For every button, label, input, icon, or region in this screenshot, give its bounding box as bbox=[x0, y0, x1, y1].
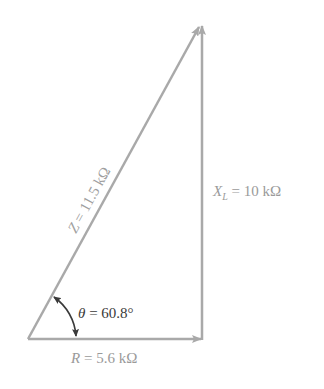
resistance-label: R = 5.6 kΩ bbox=[70, 350, 137, 366]
angle-arc-icon bbox=[54, 297, 76, 336]
angle-label: θ = 60.8° bbox=[78, 305, 134, 321]
impedance-label: Z = 11.5 kΩ bbox=[65, 164, 114, 235]
reactance-label: XL = 10 kΩ bbox=[212, 183, 281, 202]
impedance-vector bbox=[28, 27, 199, 339]
impedance-triangle-diagram: Z = 11.5 kΩ XL = 10 kΩ θ = 60.8° R = 5.6… bbox=[0, 0, 324, 389]
